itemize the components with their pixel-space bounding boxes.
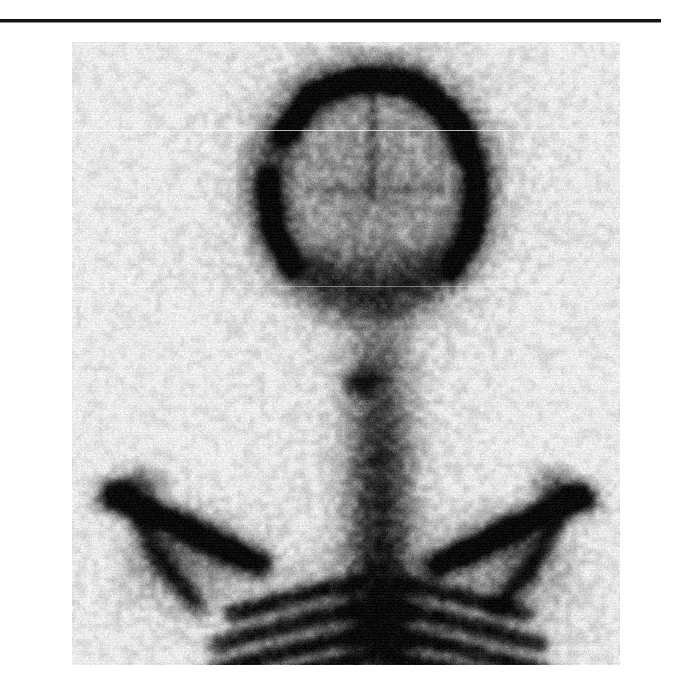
- bone-scintigram-image: [72, 42, 620, 665]
- panel-label-a: A: [140, 662, 159, 665]
- top-horizontal-rule: [0, 19, 661, 22]
- scintigraphy-figure-panel: A: [72, 42, 620, 665]
